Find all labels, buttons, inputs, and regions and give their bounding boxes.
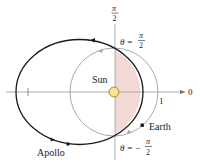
apollo-orbit-arrow-icon	[90, 38, 95, 42]
apollo-dot	[66, 142, 70, 146]
apollo-label: Apollo	[37, 147, 65, 158]
axis-arrow-icon	[180, 90, 186, 94]
theta-top-num: π	[139, 31, 144, 40]
axis-one-label: 1	[159, 96, 164, 106]
sun-icon	[109, 87, 119, 97]
earth-label: Earth	[149, 121, 171, 132]
polar-orbit-diagram: Sun Earth Apollo 0 1 π 2 θ = π 2 θ = − π…	[0, 0, 200, 168]
top-two-label: 2	[113, 14, 117, 23]
theta-bot-lhs: θ = −	[120, 143, 141, 153]
earth-dot	[141, 124, 144, 127]
theta-top-den: 2	[139, 41, 143, 50]
axis-zero-label: 0	[188, 87, 193, 97]
theta-bot-den: 2	[146, 148, 150, 157]
sun-label: Sun	[92, 74, 108, 85]
theta-bot-num: π	[146, 137, 151, 146]
earth-orbit-arrow-icon	[98, 49, 103, 54]
top-pi-label: π	[112, 4, 117, 13]
theta-top-lhs: θ =	[120, 37, 133, 47]
